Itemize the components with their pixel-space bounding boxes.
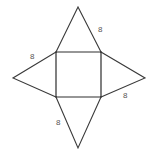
left-triangle-outline <box>13 52 56 97</box>
top-triangle-outline <box>56 7 101 52</box>
central-square-outline <box>56 52 101 97</box>
dimension-label-left: 8 <box>30 53 34 61</box>
dimension-label-top-right: 8 <box>98 26 102 34</box>
net-diagram-svg <box>0 0 153 158</box>
dimension-label-bottom: 8 <box>56 119 60 127</box>
bottom-triangle-outline <box>56 97 101 148</box>
geometry-figure: 8 8 8 8 <box>0 0 153 158</box>
dimension-label-right: 8 <box>123 92 127 100</box>
